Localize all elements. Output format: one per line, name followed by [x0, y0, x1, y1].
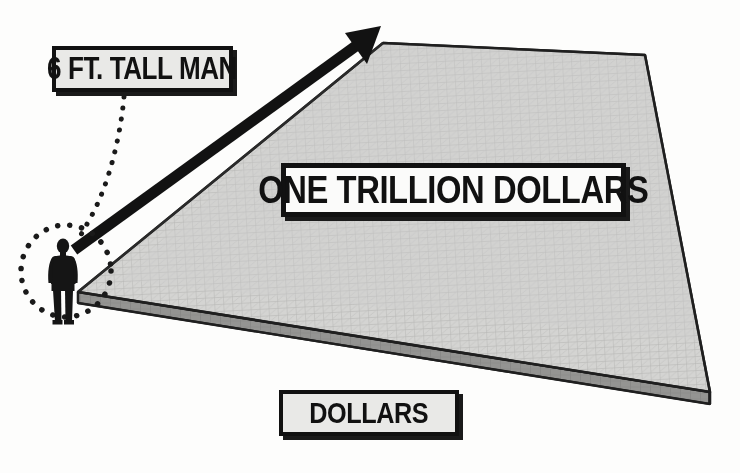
volume-label: ONE TRILLION DOLLARS	[281, 163, 626, 217]
unit-label: DOLLARS	[279, 390, 459, 436]
scale-reference-label-text: 6 FT. TALL MAN	[48, 51, 238, 87]
unit-label-text: DOLLARS	[310, 396, 429, 430]
illustration-scene: 6 FT. TALL MAN ONE TRILLION DOLLARS DOLL…	[0, 0, 740, 473]
scale-reference-label: 6 FT. TALL MAN	[52, 46, 233, 92]
man-silhouette	[48, 239, 78, 325]
volume-label-text: ONE TRILLION DOLLARS	[258, 168, 648, 212]
infographic-canvas: 6 FT. TALL MAN ONE TRILLION DOLLARS DOLL…	[0, 0, 740, 473]
money-slab-body	[78, 43, 710, 404]
